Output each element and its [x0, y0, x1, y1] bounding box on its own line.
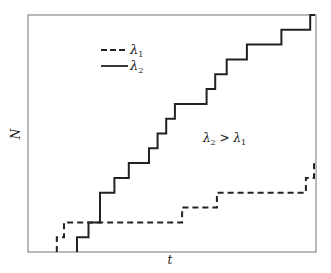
step-chart: λ1 λ2 λ2 > λ1 t N — [0, 0, 331, 273]
legend: λ1 λ2 — [101, 42, 143, 75]
plot-frame — [28, 15, 316, 252]
legend-label-lambda2: λ2 — [129, 58, 143, 75]
series-lambda1-dashed — [57, 163, 315, 252]
legend-label-lambda1: λ1 — [129, 42, 143, 59]
y-axis-label: N — [9, 128, 23, 140]
x-axis-label: t — [168, 253, 173, 267]
annotation-lambda-comparison: λ2 > λ1 — [202, 131, 246, 147]
